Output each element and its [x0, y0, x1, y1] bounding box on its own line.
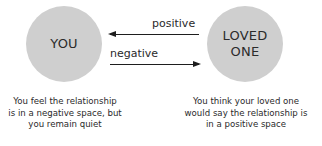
positive-edge-label: positive	[152, 17, 195, 30]
you-label: YOU	[50, 36, 78, 52]
negative-arrow	[110, 64, 199, 65]
positive-arrow	[110, 34, 199, 35]
loved-one-caption: You think your loved one would say the r…	[184, 96, 308, 131]
you-node: YOU	[26, 6, 102, 82]
arrow-right-icon	[193, 61, 201, 67]
loved-one-label-line2: ONE	[231, 44, 260, 59]
loved-one-caption-line: in a positive space	[184, 119, 308, 131]
you-caption-line: You feel the relationship	[6, 96, 124, 108]
you-caption-line: you remain quiet	[6, 119, 124, 131]
arrow-left-icon	[108, 31, 116, 37]
loved-one-label: LOVED ONE	[223, 28, 268, 60]
loved-one-caption-line: would say the relationship is	[184, 108, 308, 120]
negative-edge-label: negative	[110, 47, 158, 60]
you-caption: You feel the relationship is in a negati…	[6, 96, 124, 131]
you-caption-line: is in a negative space, but	[6, 108, 124, 120]
loved-one-label-line1: LOVED	[223, 28, 268, 43]
loved-one-node: LOVED ONE	[207, 6, 283, 82]
loved-one-caption-line: You think your loved one	[184, 96, 308, 108]
